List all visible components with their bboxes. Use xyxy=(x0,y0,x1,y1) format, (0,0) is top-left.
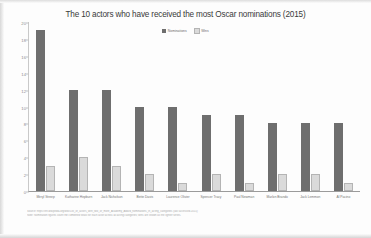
bar-wins xyxy=(112,166,121,191)
scan-edge-left xyxy=(0,0,4,238)
x-axis-label: Paul Newman xyxy=(228,195,261,199)
bar-wins xyxy=(178,183,187,191)
y-tick-label: 10 xyxy=(12,105,26,110)
x-axis-label: Meryl Streep xyxy=(29,195,62,199)
bar-nominations xyxy=(268,123,277,191)
bar-wins xyxy=(245,183,254,191)
bar-group xyxy=(327,22,360,191)
bar-group xyxy=(294,22,327,191)
bar-wins xyxy=(344,183,353,191)
bar-nominations xyxy=(69,90,78,191)
bar-group xyxy=(261,22,294,191)
bar-group xyxy=(161,22,194,191)
y-tick-label: 2 xyxy=(12,173,26,178)
x-axis-label: Jack Nicholson xyxy=(95,195,128,199)
y-tick-label: 0 xyxy=(12,190,26,195)
bar-nominations xyxy=(168,107,177,192)
y-tick-label: 16 xyxy=(12,54,26,59)
y-tick-label: 8 xyxy=(12,122,26,127)
chart-page: The 10 actors who have received the most… xyxy=(0,0,371,238)
x-axis-label: Laurence Olivier xyxy=(161,195,194,199)
y-tick-label: 4 xyxy=(12,156,26,161)
x-axis-label: Al Pacino xyxy=(327,195,360,199)
x-axis-label: Spencer Tracy xyxy=(194,195,227,199)
bar-wins xyxy=(46,166,55,191)
bar-group xyxy=(128,22,161,191)
bar-wins xyxy=(145,174,154,191)
y-tick-label: 20 xyxy=(12,21,26,26)
bar-nominations xyxy=(235,115,244,191)
y-tick-label: 6 xyxy=(12,139,26,144)
bar-group xyxy=(95,22,128,191)
bar-wins xyxy=(278,174,287,191)
scan-edge-bottom xyxy=(0,234,371,238)
bar-nominations xyxy=(202,115,211,191)
bar-group xyxy=(29,22,62,191)
bar-series-container xyxy=(29,22,360,191)
x-axis-label: Jack Lemmon xyxy=(294,195,327,199)
plot-area: 20181614121086420 xyxy=(28,22,360,192)
bar-group xyxy=(228,22,261,191)
chart-footnote: Source: https://en.wikipedia.org/wiki/Li… xyxy=(27,210,347,218)
bar-nominations xyxy=(334,123,343,191)
bar-nominations xyxy=(102,90,111,191)
footnote-line: Note: Nomination figures count the combi… xyxy=(27,214,347,218)
x-axis-label: Marlon Brando xyxy=(261,195,294,199)
y-tick-mark xyxy=(26,192,29,193)
x-axis-label: Katharine Hepburn xyxy=(62,195,95,199)
bar-group xyxy=(194,22,227,191)
bar-group xyxy=(62,22,95,191)
bar-wins xyxy=(79,157,88,191)
x-axis-labels: Meryl StreepKatharine HepburnJack Nichol… xyxy=(29,195,360,199)
bar-wins xyxy=(311,174,320,191)
bar-nominations xyxy=(135,107,144,192)
y-tick-label: 18 xyxy=(12,37,26,42)
y-tick-label: 14 xyxy=(12,71,26,76)
chart-title: The 10 actors who have received the most… xyxy=(0,10,371,19)
x-axis-label: Bette Davis xyxy=(128,195,161,199)
y-tick-label: 12 xyxy=(12,88,26,93)
bar-nominations xyxy=(36,30,45,191)
bar-wins xyxy=(212,174,221,191)
x-axis-line xyxy=(28,191,360,192)
scan-edge-top xyxy=(0,0,371,3)
bar-nominations xyxy=(301,123,310,191)
